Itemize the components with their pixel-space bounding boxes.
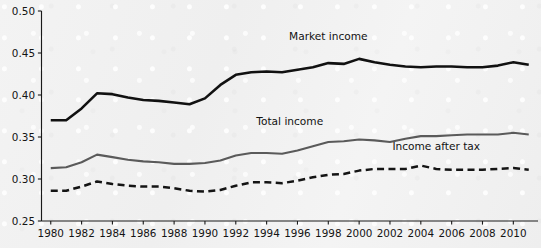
y-axis-tick-label: 0.25 — [12, 215, 35, 227]
x-axis-tick-label: 2002 — [377, 227, 403, 239]
x-axis-tick-label: 2004 — [408, 227, 435, 239]
series-label-total-income: Total income — [255, 115, 323, 127]
series-label-income-after-tax: Income after tax — [392, 140, 480, 152]
x-axis-tick-label: 2000 — [346, 227, 372, 239]
chart-plot-area: 0.500.450.400.350.300.251980198219841986… — [0, 0, 541, 248]
x-axis-tick-label: 1990 — [192, 227, 218, 239]
x-axis-tick-label: 1996 — [284, 227, 310, 239]
x-axis-tick-label: 1982 — [68, 227, 94, 239]
series-line-market-income — [51, 59, 529, 120]
x-axis-tick-label: 1984 — [99, 227, 126, 239]
y-axis-tick-label: 0.40 — [12, 89, 35, 101]
x-axis-tick-label: 2006 — [438, 227, 464, 239]
x-axis-tick-label: 1994 — [253, 227, 280, 239]
x-axis-tick-label: 1992 — [223, 227, 249, 239]
x-axis-tick-label: 1986 — [130, 227, 156, 239]
x-axis-tick-label: 1998 — [315, 227, 341, 239]
y-axis-tick-label: 0.35 — [12, 131, 35, 143]
x-axis-tick-label: 1980 — [38, 227, 64, 239]
x-axis-tick-label: 2010 — [500, 227, 526, 239]
x-axis-tick-label: 2008 — [469, 227, 495, 239]
y-axis-tick-label: 0.50 — [12, 5, 35, 17]
x-axis-tick-label: 1988 — [161, 227, 187, 239]
series-line-income-after-tax — [51, 166, 529, 192]
y-axis-tick-label: 0.45 — [12, 47, 35, 59]
income-inequality-chart: 0.500.450.400.350.300.251980198219841986… — [0, 0, 541, 248]
series-label-market-income: Market income — [289, 30, 368, 42]
y-axis-tick-label: 0.30 — [12, 173, 35, 185]
